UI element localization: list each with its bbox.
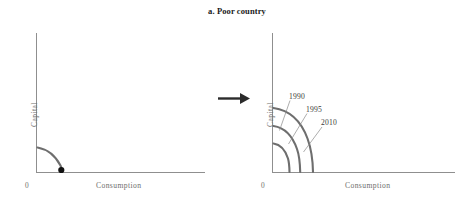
curve-1990 <box>274 144 290 173</box>
figure-graphics <box>0 0 474 202</box>
panel-poor-country-before <box>37 33 206 173</box>
right-x-axis-title: Consumption <box>345 181 390 190</box>
curve-label-1995: 1995 <box>306 105 322 114</box>
left-origin-label: 0 <box>25 181 29 190</box>
figure-container: a. Poor country <box>0 0 474 202</box>
panel-poor-country-after <box>273 33 456 173</box>
leader-line-1990 <box>280 101 291 131</box>
left-x-axis-title: Consumption <box>96 181 141 190</box>
curve-1995 <box>274 126 301 172</box>
left-y-axis-title: Capital <box>30 102 39 127</box>
curve-label-2010: 2010 <box>321 118 337 127</box>
left-allocation-point <box>58 167 64 173</box>
right-arrow-icon <box>218 93 250 104</box>
right-origin-label: 0 <box>261 181 265 190</box>
curve-label-1990: 1990 <box>289 92 305 101</box>
leader-line-2010 <box>304 127 323 152</box>
right-y-axis-title: Capital <box>266 102 275 127</box>
